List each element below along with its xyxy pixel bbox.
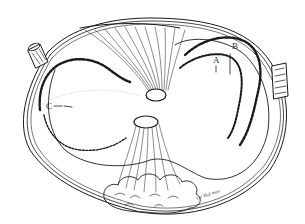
lower-papillary-muscle (118, 124, 180, 192)
anatomical-illustration (0, 0, 305, 224)
left-leaflet (40, 59, 130, 110)
label-b: B (232, 42, 238, 51)
upper-papillary-muscle (80, 24, 185, 91)
papillary-cut-upper (146, 89, 166, 101)
arrow-c (54, 106, 72, 107)
label-a: A (213, 56, 220, 65)
right-leaflet-outer (185, 37, 260, 145)
label-c: C (46, 102, 52, 111)
right-leaflet-inner (180, 54, 242, 138)
outer-wall (23, 18, 286, 214)
papillary-cut-lower (134, 116, 158, 128)
right-vessel-stub (272, 63, 288, 99)
left-vessel-stub (27, 42, 48, 68)
